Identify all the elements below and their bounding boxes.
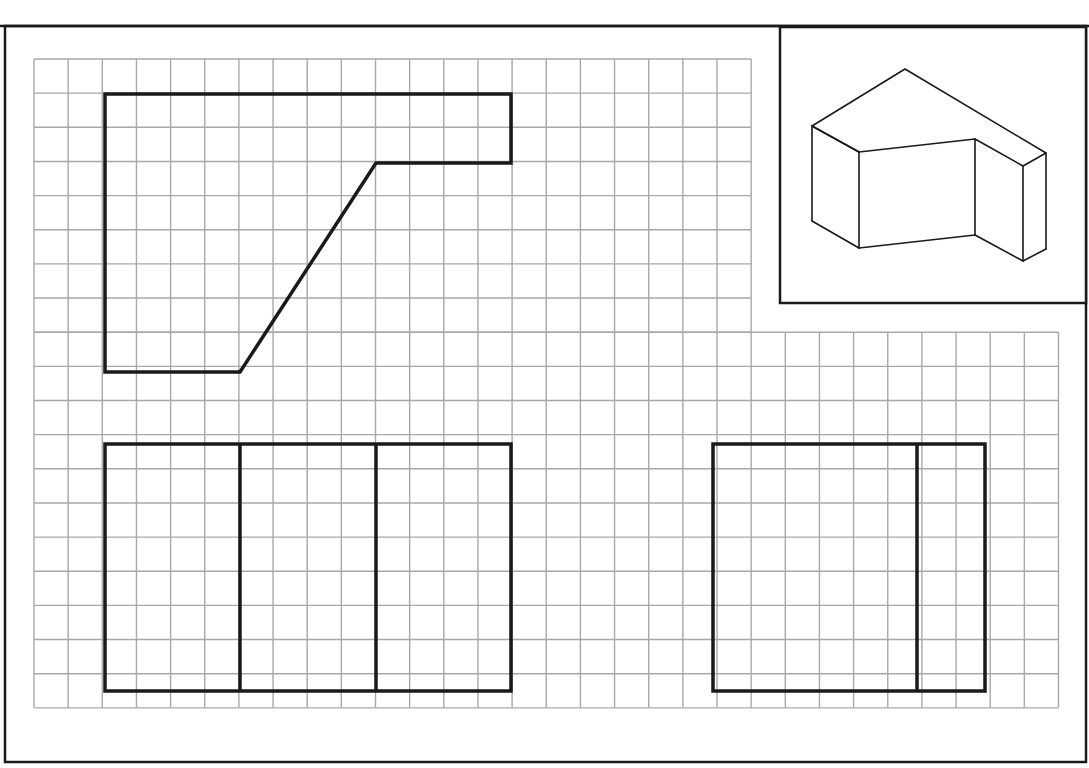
side-view-outline — [713, 444, 985, 691]
isometric-inset — [780, 27, 1086, 303]
top-view-outline — [105, 94, 511, 372]
drawing-sheet — [0, 0, 1089, 768]
inset-box — [780, 27, 1086, 303]
front-view-outline — [105, 444, 511, 691]
